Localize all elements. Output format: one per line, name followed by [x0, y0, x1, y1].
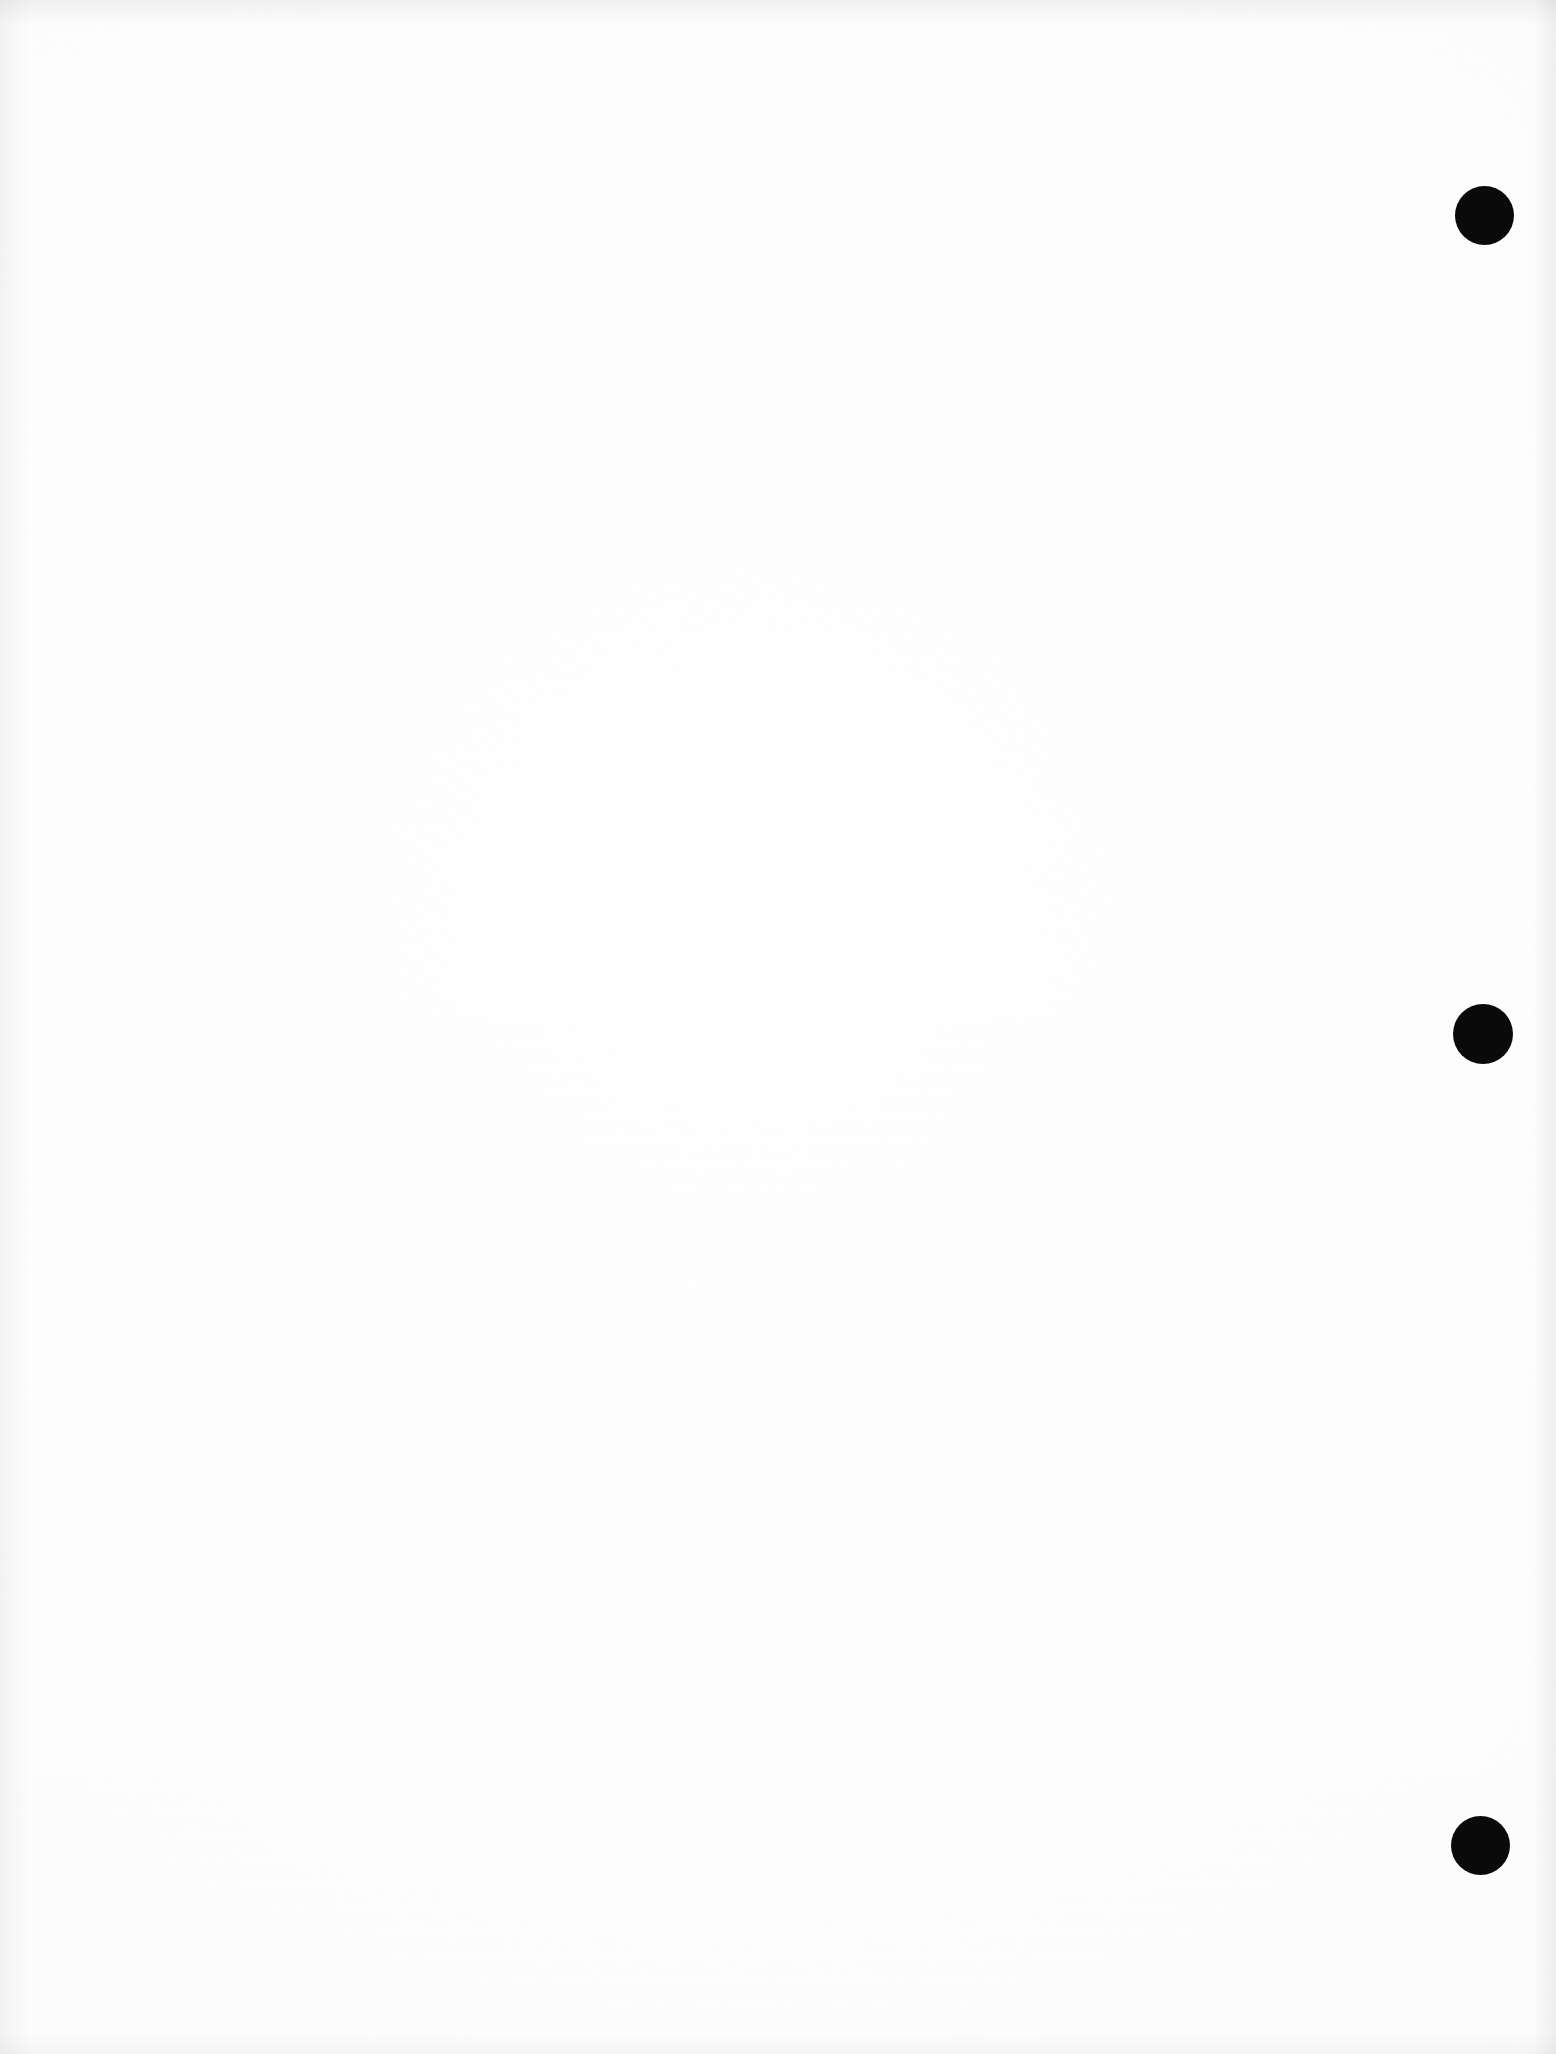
- bleed-through-lower-right: [700, 1300, 1360, 1540]
- registration-dot-middle: [1453, 1004, 1513, 1064]
- registration-dot-bottom: [1451, 1816, 1510, 1875]
- bleed-through-lower-left: [280, 1190, 1040, 1510]
- page-content-area: [0, 0, 1556, 2054]
- scanned-page: [0, 0, 1556, 2054]
- bleed-through-mid-left: [180, 990, 1000, 1190]
- registration-dot-top: [1455, 186, 1514, 245]
- bleed-through-upper-left: [150, 380, 850, 660]
